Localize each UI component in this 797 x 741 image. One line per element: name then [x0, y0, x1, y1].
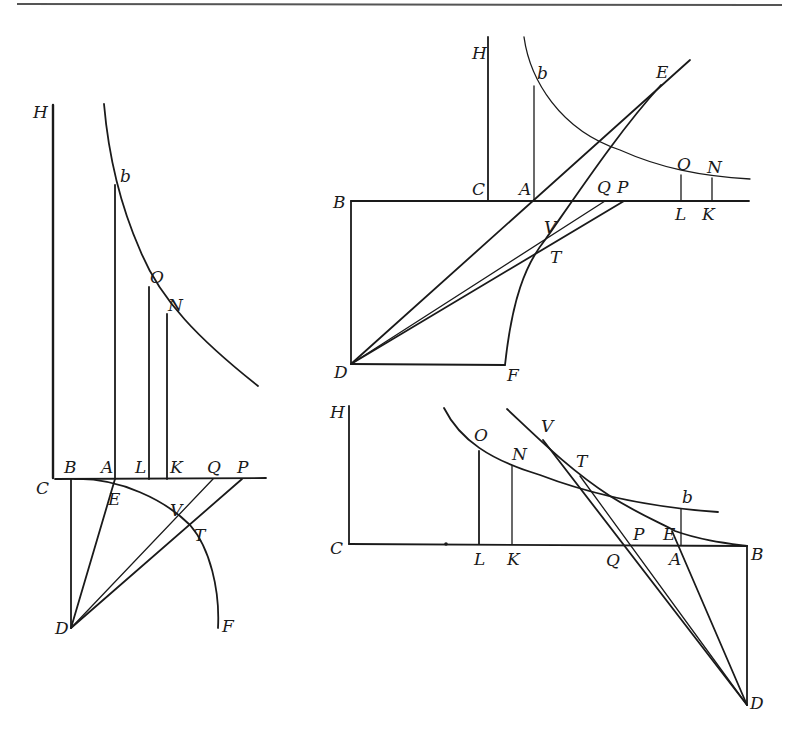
line-DQ [351, 201, 605, 364]
label-C: C [330, 538, 343, 558]
baseline-CB [349, 544, 747, 546]
label-T: T [194, 525, 207, 545]
label-L: L [674, 204, 686, 224]
figure-bottom-right: H O V N T b C L K Q P E A B D [329, 402, 764, 713]
label-H: H [32, 102, 49, 122]
label-D: D [333, 362, 348, 382]
label-b: b [682, 487, 693, 507]
label-C: C [36, 478, 49, 498]
label-B: B [63, 457, 77, 477]
label-V: V [170, 500, 184, 520]
label-Q: Q [597, 177, 611, 197]
label-L: L [134, 457, 146, 477]
label-O: O [150, 267, 164, 287]
figure-left: H b O N C B A L K Q P E V T D F [32, 102, 266, 638]
label-H: H [329, 402, 346, 422]
label-P: P [236, 457, 249, 477]
label-T: T [576, 451, 589, 471]
top-rule [17, 4, 782, 5]
label-E: E [107, 489, 121, 509]
label-V: V [544, 217, 558, 237]
label-B: B [332, 192, 346, 212]
label-N: N [167, 295, 184, 315]
line-DF [351, 364, 505, 365]
label-Q: Q [606, 550, 620, 570]
label-A: A [517, 179, 531, 199]
line-VQD [543, 440, 747, 705]
label-P: P [616, 177, 629, 197]
label-B: B [750, 544, 764, 564]
label-K: K [701, 204, 716, 224]
geometric-diagram: H b O N C B A L K Q P E V T D F [0, 0, 797, 741]
label-E: E [655, 62, 669, 82]
label-F: F [221, 616, 235, 636]
label-b: b [120, 166, 131, 186]
label-D: D [54, 618, 69, 638]
label-V: V [541, 416, 555, 436]
line-DAE [351, 60, 690, 364]
label-Q: Q [207, 457, 221, 477]
line-DP [71, 479, 242, 628]
label-L: L [473, 549, 485, 569]
label-O: O [474, 425, 488, 445]
label-P: P [632, 524, 645, 544]
label-D: D [749, 693, 764, 713]
baseline-dot [444, 542, 448, 546]
label-A: A [667, 549, 681, 569]
label-H: H [471, 43, 488, 63]
hyperbola-bON [104, 104, 258, 386]
line-DP [351, 201, 624, 364]
label-K: K [506, 549, 521, 569]
figure-top-right: H b E O N B C A Q P L K V T D F [332, 37, 750, 385]
label-T: T [550, 247, 563, 267]
label-K: K [169, 457, 184, 477]
line-TPD [580, 476, 747, 705]
label-N: N [706, 157, 723, 177]
label-O: O [677, 154, 691, 174]
label-E: E [662, 524, 676, 544]
label-F: F [506, 365, 520, 385]
label-A: A [99, 457, 113, 477]
label-N: N [511, 444, 528, 464]
label-b: b [537, 63, 548, 83]
label-C: C [472, 179, 485, 199]
